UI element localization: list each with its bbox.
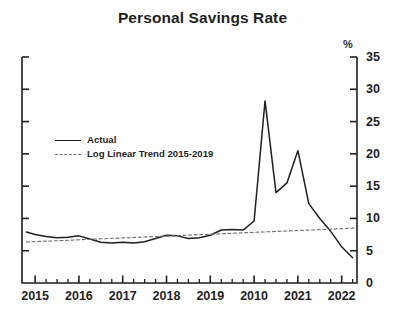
series-line-actual bbox=[26, 101, 352, 258]
y-tick-label: 5 bbox=[366, 244, 373, 258]
series-line-log-linear-trend-2015-2019 bbox=[26, 228, 354, 242]
x-tick-label: 2019 bbox=[196, 289, 224, 303]
x-tick-label: 2018 bbox=[153, 289, 181, 303]
chart-legend: ActualLog Linear Trend 2015-2019 bbox=[55, 133, 213, 161]
x-tick-label: 2015 bbox=[21, 289, 49, 303]
legend-label: Log Linear Trend 2015-2019 bbox=[87, 147, 213, 162]
x-tick-label: 2010 bbox=[240, 289, 268, 303]
legend-item: Log Linear Trend 2015-2019 bbox=[55, 147, 213, 161]
chart-container: Personal Savings Rate % 05101520253035 2… bbox=[0, 0, 405, 324]
y-tick-label: 10 bbox=[366, 211, 380, 225]
y-tick-label: 30 bbox=[366, 82, 380, 96]
y-tick-label: 15 bbox=[366, 179, 380, 193]
x-tick-label: 2021 bbox=[284, 289, 312, 303]
y-tick-label: 25 bbox=[366, 115, 380, 129]
legend-label: Actual bbox=[87, 133, 116, 148]
axes bbox=[22, 57, 357, 283]
chart-title: Personal Savings Rate bbox=[0, 9, 405, 27]
y-tick-label: 0 bbox=[366, 276, 373, 290]
legend-swatch-dashed-line-icon bbox=[55, 150, 81, 159]
legend-swatch-solid-line-icon bbox=[55, 136, 81, 145]
y-axis-unit-label: % bbox=[343, 38, 353, 50]
x-tick-label: 2022 bbox=[328, 289, 356, 303]
x-tick-label: 2016 bbox=[65, 289, 93, 303]
y-tick-label: 20 bbox=[366, 147, 380, 161]
x-tick-label: 2017 bbox=[109, 289, 137, 303]
data-series bbox=[26, 101, 354, 258]
legend-item: Actual bbox=[55, 133, 213, 147]
y-tick-label: 35 bbox=[366, 50, 380, 64]
